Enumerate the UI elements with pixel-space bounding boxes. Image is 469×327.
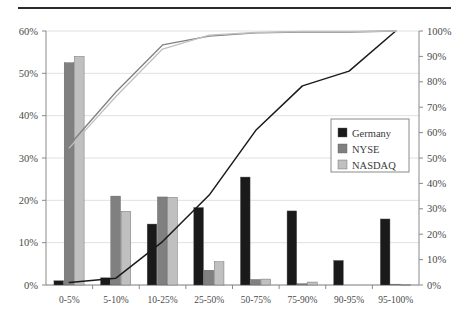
x-axis-tick-label: 5-10% bbox=[103, 295, 128, 305]
legend-swatch bbox=[338, 128, 347, 137]
left-axis-tick-label: 20% bbox=[19, 195, 39, 206]
bar bbox=[214, 262, 224, 285]
x-axis-tick-label: 10-25% bbox=[148, 295, 178, 305]
right-axis-tick-label: 60% bbox=[427, 127, 447, 138]
right-axis-tick-label: 20% bbox=[427, 229, 447, 240]
right-axis-tick-label: 90% bbox=[427, 51, 447, 62]
legend-group: GermanyNYSENASDAQ bbox=[331, 119, 409, 172]
bar bbox=[401, 285, 411, 286]
chart-plot-area: 0%10%20%30%40%50%60% 0%10%20%30%40%50%60… bbox=[0, 0, 469, 327]
bar bbox=[54, 281, 64, 285]
x-axis-group: 0-5%5-10%10-25%25-50%50-75%75-90%90-95%9… bbox=[59, 285, 413, 305]
right-axis-tick-label: 40% bbox=[427, 178, 447, 189]
x-axis-tick-label: 25-50% bbox=[194, 295, 224, 305]
bar bbox=[111, 196, 121, 285]
bar bbox=[121, 211, 131, 285]
bar bbox=[74, 56, 84, 285]
bar bbox=[380, 219, 390, 285]
x-axis-tick-label: 75-90% bbox=[287, 295, 317, 305]
right-axis-tick-label: 10% bbox=[427, 254, 447, 265]
bar bbox=[287, 211, 297, 285]
right-axis-tick-label: 0% bbox=[427, 280, 441, 291]
x-axis-tick-label: 95-100% bbox=[378, 295, 413, 305]
bar bbox=[261, 279, 271, 285]
bar bbox=[334, 260, 344, 285]
bar bbox=[204, 270, 214, 285]
left-axis-tick-label: 30% bbox=[19, 153, 39, 164]
x-axis-tick-label: 0-5% bbox=[59, 295, 80, 305]
chart-container: 0%10%20%30%40%50%60% 0%10%20%30%40%50%60… bbox=[0, 0, 469, 327]
bar bbox=[391, 284, 401, 285]
right-axis-tick-label: 80% bbox=[427, 76, 447, 87]
bar bbox=[147, 224, 157, 285]
left-axis-tick-label: 10% bbox=[19, 237, 39, 248]
left-axis-tick-label: 0% bbox=[24, 280, 38, 291]
bar bbox=[64, 63, 74, 285]
x-axis-tick-label: 90-95% bbox=[334, 295, 364, 305]
left-axis-group: 0%10%20%30%40%50%60% bbox=[19, 26, 46, 291]
legend-label: Germany bbox=[352, 128, 392, 139]
legend-label: NYSE bbox=[352, 144, 379, 155]
right-axis-tick-label: 30% bbox=[427, 203, 447, 214]
right-axis-group: 0%10%20%30%40%50%60%70%80%90%100% bbox=[419, 26, 452, 291]
left-axis-tick-label: 50% bbox=[19, 68, 39, 79]
legend-label: NASDAQ bbox=[352, 160, 396, 171]
legend-swatch bbox=[338, 160, 347, 169]
right-axis-tick-label: 70% bbox=[427, 102, 447, 113]
legend-swatch bbox=[338, 144, 347, 153]
bar bbox=[240, 177, 250, 285]
bar bbox=[251, 279, 261, 285]
right-axis-tick-label: 50% bbox=[427, 153, 447, 164]
bar bbox=[168, 197, 178, 285]
bar bbox=[194, 208, 204, 285]
left-axis-tick-label: 60% bbox=[19, 26, 39, 37]
right-axis-tick-label: 100% bbox=[427, 26, 452, 37]
left-axis-tick-label: 40% bbox=[19, 110, 39, 121]
x-axis-tick-label: 50-75% bbox=[241, 295, 271, 305]
bar bbox=[297, 284, 307, 285]
bar bbox=[308, 282, 318, 285]
